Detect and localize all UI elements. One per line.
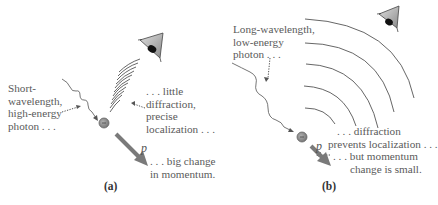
little-diffraction-label: . . . little diffraction, precise locali… (146, 85, 215, 135)
pointer-arrowhead (131, 101, 135, 106)
momentum-arrow (116, 134, 140, 158)
photon-arrowhead (288, 128, 294, 132)
short-wavelength-photon-wave (62, 79, 96, 118)
short-wavelength-photon-label: Short- wavelength, high-energy photon . … (8, 82, 62, 132)
diffraction-prevents-localization-label: . . . diffraction (337, 125, 401, 138)
photon-label-pointer (268, 58, 270, 78)
momentum-symbol: p⃗ (316, 139, 331, 154)
eye-icon (138, 33, 163, 62)
photon-label-pointer (62, 107, 78, 112)
panel-a-caption: (a) (104, 180, 117, 192)
momentum-symbol: p⃗ (141, 141, 156, 156)
long-wavelength-photon-wave (232, 63, 290, 130)
photon-arrowhead (93, 115, 98, 121)
panel-b-caption: (b) (322, 180, 336, 192)
diffraction-label-pointer (134, 104, 145, 108)
scattered-wavefronts-narrow (110, 59, 140, 112)
small-momentum-change-label: . . . but momentum (333, 150, 418, 163)
pointer-arrowhead (264, 77, 269, 82)
pointer-arrowhead (76, 105, 81, 109)
long-wavelength-photon-label: Long-wavelength, low-energy photon . . . (233, 23, 315, 61)
diffraction-prevents-localization-label-line2: prevents localization . . . (328, 138, 438, 151)
scattered-wavefronts-wide (304, 19, 414, 128)
eye-icon (377, 6, 399, 32)
small-momentum-change-label-line2: change is small. (350, 163, 422, 176)
big-momentum-change-label: . . . big change in momentum. (150, 155, 216, 180)
